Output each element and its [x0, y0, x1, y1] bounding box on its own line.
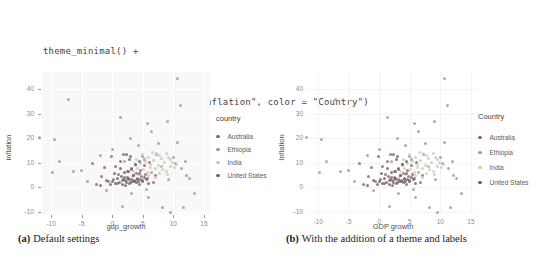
x-tick-mark [173, 215, 174, 218]
y-tick-label: 30 [273, 110, 303, 118]
data-point [366, 154, 369, 157]
data-point [58, 160, 61, 163]
data-point [353, 180, 356, 183]
figure-b: Inflation GDP growth Country Australia E… [273, 62, 545, 230]
data-point [370, 166, 373, 169]
data-point [157, 142, 160, 145]
data-point [163, 161, 166, 164]
data-point [113, 172, 116, 175]
data-point [80, 169, 83, 172]
y-tick-label: 30 [0, 110, 34, 118]
data-point [176, 141, 179, 144]
x-tick-label: 5 [398, 218, 422, 226]
data-point [53, 138, 56, 141]
data-point [388, 205, 391, 208]
data-point [414, 156, 417, 159]
x-tick-label: 5 [131, 220, 155, 228]
figure-a: inflation gdp_growth country Australia E… [0, 62, 272, 230]
data-point [417, 130, 420, 133]
data-point [167, 178, 170, 181]
page: theme_minimal() + labs(x = "GDP growth",… [0, 0, 545, 260]
data-point [334, 98, 337, 101]
data-point [154, 176, 157, 179]
legend-label-india: India [490, 164, 504, 171]
caption-b-text: With the addition of a theme and labels [302, 233, 467, 244]
gridline [309, 114, 477, 115]
data-point [123, 171, 126, 174]
data-point [146, 122, 149, 125]
data-point [147, 196, 150, 199]
data-point [151, 151, 154, 154]
data-point [132, 170, 135, 173]
data-point [171, 161, 174, 164]
code-line-1: theme_minimal() + [43, 43, 369, 60]
gridline [410, 72, 411, 214]
legend-item-ethiopia: Ethiopia [478, 145, 529, 160]
x-tick-mark [143, 215, 144, 218]
x-tick-label: 0 [367, 218, 391, 226]
data-point [442, 163, 445, 166]
data-point [372, 189, 375, 192]
data-point [410, 157, 413, 160]
data-point [119, 160, 122, 163]
data-point [438, 161, 441, 164]
gridline [379, 72, 380, 214]
india-point-icon [216, 161, 220, 165]
gridline [42, 187, 210, 188]
data-point [347, 169, 350, 172]
y-tick-mark [38, 89, 41, 90]
data-point [455, 177, 458, 180]
data-point [127, 170, 130, 173]
data-point [414, 174, 417, 177]
data-point [119, 167, 122, 170]
gridline [309, 212, 477, 213]
data-point [460, 192, 463, 195]
y-tick-label: 0 [0, 183, 34, 191]
caption-a-tag: (a) [18, 233, 30, 244]
united-states-point-icon [478, 181, 482, 185]
data-point [446, 104, 449, 107]
data-point [439, 156, 442, 159]
data-point [392, 181, 395, 184]
data-point [152, 181, 155, 184]
y-tick-label: 20 [273, 134, 303, 142]
x-tick-label: 15 [192, 220, 216, 228]
data-point [386, 167, 389, 170]
data-point [147, 174, 150, 177]
data-point [169, 165, 172, 168]
y-tick-label: -10 [0, 208, 34, 216]
x-tick-label: -10 [39, 220, 63, 228]
data-point [443, 141, 446, 144]
plot-a-y-axis-label: inflation [4, 78, 13, 218]
data-point [419, 159, 422, 162]
data-point [180, 167, 183, 170]
gridline [51, 72, 52, 214]
gridline [204, 72, 205, 214]
y-tick-mark [38, 187, 41, 188]
data-point [152, 159, 155, 162]
data-point [161, 206, 164, 209]
x-tick-label: -5 [70, 220, 94, 228]
x-tick-label: 15 [459, 218, 483, 226]
data-point [116, 177, 119, 180]
gridline [42, 212, 210, 213]
data-point [414, 196, 417, 199]
data-point [405, 183, 408, 186]
gridline [173, 72, 174, 214]
data-point [318, 171, 321, 174]
x-tick-label: 10 [161, 220, 185, 228]
data-point [430, 161, 433, 164]
y-tick-mark [38, 163, 41, 164]
plot-a-panel [42, 72, 210, 214]
caption-b-tag: (b) [286, 233, 299, 244]
y-tick-label: 40 [273, 85, 303, 93]
data-point [443, 77, 446, 80]
data-point [132, 174, 135, 177]
x-tick-mark [112, 215, 113, 218]
data-point [388, 183, 391, 186]
data-point [110, 155, 113, 158]
data-point [166, 120, 169, 123]
legend-label-united-states: United States [228, 172, 267, 179]
y-tick-label: 10 [273, 159, 303, 167]
x-tick-label: 10 [428, 218, 452, 226]
